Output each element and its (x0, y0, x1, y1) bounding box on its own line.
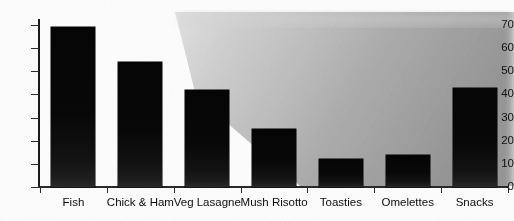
y-axis-tick (31, 187, 39, 188)
x-axis-tick (241, 188, 242, 193)
y-axis-tick (31, 25, 39, 26)
bar-chart: 706050403020100 FishChick & HamVeg Lasag… (0, 0, 514, 221)
y-axis-tick (31, 48, 39, 49)
bar (51, 27, 95, 187)
x-axis-category-label: Chick & Ham (107, 196, 174, 209)
plot-area: 706050403020100 FishChick & HamVeg Lasag… (0, 0, 514, 221)
y-axis-line (38, 19, 40, 188)
y-axis-tick (31, 118, 39, 119)
bar (319, 159, 363, 187)
x-axis-tick (40, 188, 41, 193)
x-axis-tick (307, 188, 308, 193)
x-axis-category-label: Omelettes (374, 196, 441, 209)
bar (185, 90, 229, 187)
x-axis-tick (374, 188, 375, 193)
bar (118, 62, 162, 187)
x-axis-category-label: Fish (40, 196, 107, 209)
bar (386, 155, 430, 187)
x-axis-tick (174, 188, 175, 193)
x-axis-category-label: Mush Risotto (241, 196, 308, 209)
x-axis-tick (441, 188, 442, 193)
y-axis-tick (31, 94, 39, 95)
y-axis-tick (31, 71, 39, 72)
y-axis-tick-label: 50 (486, 65, 514, 77)
x-axis-category-label: Toasties (307, 196, 374, 209)
x-axis-tick (107, 188, 108, 193)
y-axis-tick-label: 70 (486, 19, 514, 31)
x-axis-tick (508, 188, 509, 193)
y-axis-tick (31, 141, 39, 142)
bar (252, 129, 296, 187)
x-axis-category-label: Veg Lasagne (174, 196, 241, 209)
bar (453, 88, 497, 188)
y-axis-tick-label: 60 (486, 42, 514, 54)
y-axis-tick (31, 164, 39, 165)
x-axis-category-label: Snacks (441, 196, 508, 209)
